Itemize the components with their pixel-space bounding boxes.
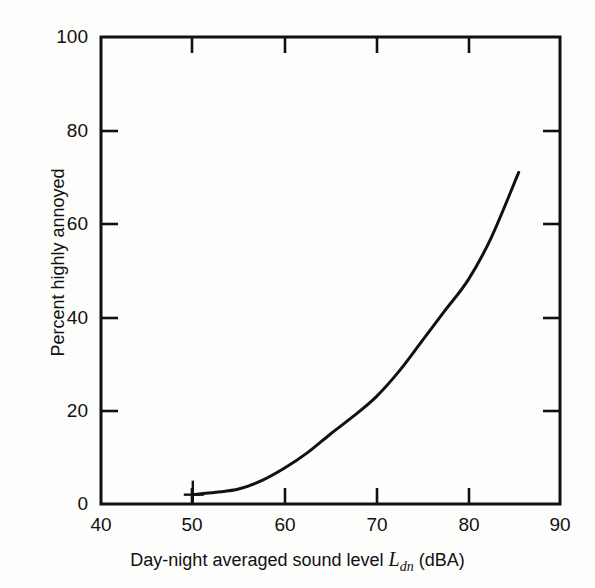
curve-start-marker — [184, 481, 204, 503]
y-tick-label-20: 20 — [30, 401, 88, 420]
y-axis-title: Percent highly annoyed — [48, 143, 69, 383]
y-tick-label-100: 100 — [30, 27, 88, 46]
x-axis-title: Day-night averaged sound level Ldn (dBA) — [0, 548, 595, 575]
x-tick-label-60: 60 — [255, 515, 315, 534]
x-axis-title-subscript: dn — [400, 559, 414, 574]
y-tick-label-80: 80 — [30, 121, 88, 140]
chart-plot-area — [0, 0, 595, 588]
x-axis-title-symbol: L — [389, 548, 400, 570]
y-axis-ticks-right — [543, 131, 560, 411]
x-tick-label-70: 70 — [347, 515, 407, 534]
y-axis-ticks-left — [101, 131, 118, 411]
x-axis-title-prefix: Day-night averaged sound level — [130, 550, 388, 570]
x-tick-label-90: 90 — [530, 515, 590, 534]
x-axis-title-suffix: (dBA) — [414, 550, 465, 570]
x-tick-label-80: 80 — [439, 515, 499, 534]
figure-container: 0 20 40 60 80 100 40 50 60 70 80 90 Perc… — [0, 0, 595, 588]
x-tick-label-50: 50 — [162, 515, 222, 534]
x-tick-label-40: 40 — [71, 515, 131, 534]
annoyance-curve — [193, 172, 519, 494]
y-tick-label-0: 0 — [30, 494, 88, 513]
x-axis-ticks-top — [192, 37, 469, 53]
